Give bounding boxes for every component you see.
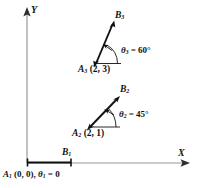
- angle-label-theta3-value: = 60°: [131, 45, 151, 55]
- y-axis-label: Y: [31, 5, 37, 15]
- vector-a3-b3-shaft: [96, 25, 113, 64]
- y-axis-label-text: Y: [31, 4, 37, 15]
- origin-label-coords: (0, 0),: [14, 169, 36, 179]
- vector-a2-b2-shaft: [90, 99, 117, 127]
- origin-label-theta-value: = 0: [48, 169, 60, 179]
- point-label-b2: B2: [120, 85, 129, 95]
- point-label-a2-coords: (2, 1): [84, 128, 105, 138]
- diagram-canvas: [0, 0, 198, 188]
- vector-a1-b1: [28, 159, 72, 167]
- angle-label-theta2: θ2 = 45°: [119, 110, 149, 120]
- theta2-arc: [109, 109, 117, 127]
- vector-a2-b2: [87, 96, 120, 130]
- point-label-b3: B3: [115, 11, 124, 21]
- x-axis-label-text: X: [178, 147, 185, 158]
- vector-angle-diagram: Y X B3 A3 (2, 3) θ3 = 60° B2 A2 (2, 1) θ…: [0, 0, 198, 188]
- point-label-a3-coords: (2, 3): [90, 64, 111, 74]
- angle-label-theta3: θ3 = 60°: [121, 46, 151, 56]
- point-label-b3-subscript: 3: [121, 14, 124, 20]
- axes-group: [23, 7, 190, 167]
- angle-label-theta3-subscript: 3: [126, 49, 129, 55]
- point-label-b1: B1: [62, 148, 71, 158]
- angle-label-theta2-value: = 45°: [129, 109, 149, 119]
- point-label-a2: A2 (2, 1): [72, 129, 104, 139]
- angle-label-theta2-subscript: 2: [124, 113, 127, 119]
- point-label-a3: A3 (2, 3): [78, 65, 110, 75]
- origin-label: A1 (0, 0), θ1 = 0: [3, 170, 60, 180]
- vector-a3-b3: [93, 21, 121, 68]
- point-label-b2-subscript: 2: [126, 88, 129, 94]
- x-axis-label: X: [178, 148, 185, 158]
- point-label-b1-subscript: 1: [68, 151, 71, 157]
